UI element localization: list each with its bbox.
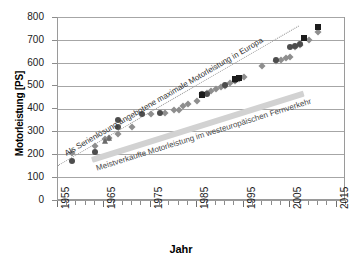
data-point-circle — [92, 149, 98, 155]
x-minor-tick — [140, 201, 141, 205]
x-minor-tick — [94, 201, 95, 205]
x-minor-tick — [326, 201, 327, 205]
x-minor-tick — [224, 201, 225, 205]
x-minor-tick — [233, 201, 234, 205]
data-point-diamond — [147, 111, 154, 118]
x-minor-tick — [317, 201, 318, 205]
y-tick-label-100: 100 — [27, 172, 44, 182]
data-point-square — [236, 75, 242, 81]
x-minor-tick — [308, 201, 309, 205]
y-axis: 800 700 600 500 400 300 200 100 0 — [0, 0, 53, 261]
y-tick-label-700: 700 — [27, 35, 44, 45]
y-tick-label-800: 800 — [27, 12, 44, 22]
x-minor-tick — [168, 201, 169, 205]
data-point-diamond — [194, 97, 201, 104]
data-point-square — [199, 92, 205, 98]
data-point-circle — [273, 57, 279, 63]
x-minor-tick — [85, 201, 86, 205]
x-minor-tick — [271, 201, 272, 205]
x-minor-tick — [187, 201, 188, 205]
x-tick-label-2015: 2015 — [340, 187, 350, 209]
x-tick-label-1955: 1955 — [61, 187, 71, 209]
data-point-circle — [69, 158, 75, 164]
y-tick-label-400: 400 — [27, 103, 44, 113]
y-tick-label-300: 300 — [27, 126, 44, 136]
x-axis-title: Jahr — [0, 243, 362, 255]
chart-root: 800 700 600 500 400 300 200 100 0 Motorl… — [0, 0, 362, 261]
data-point-diamond — [129, 124, 136, 131]
x-major-tick — [289, 201, 290, 207]
x-minor-tick — [122, 201, 123, 205]
x-tick-label-1965: 1965 — [107, 187, 117, 209]
x-minor-tick — [261, 201, 262, 205]
x-tick-label-2005: 2005 — [293, 187, 303, 209]
data-point-triangle — [106, 134, 112, 140]
x-tick-label-1975: 1975 — [154, 187, 164, 209]
x-minor-tick — [280, 201, 281, 205]
y-axis-title: Motorleistung [PS] — [14, 54, 25, 174]
gridline-800 — [58, 17, 344, 18]
y-tick-label-500: 500 — [27, 80, 44, 90]
gridline-500 — [58, 86, 344, 87]
x-minor-tick — [131, 201, 132, 205]
data-point-square — [315, 24, 321, 30]
data-point-circle — [297, 41, 303, 47]
x-major-tick — [103, 201, 104, 207]
x-minor-tick — [215, 201, 216, 205]
x-tick-label-1985: 1985 — [200, 187, 210, 209]
x-minor-tick — [178, 201, 179, 205]
x-major-tick — [336, 201, 337, 207]
y-tick-label-200: 200 — [27, 149, 44, 159]
x-major-tick — [243, 201, 244, 207]
x-major-tick — [196, 201, 197, 207]
gridline-100 — [58, 177, 344, 178]
x-tick-label-1995: 1995 — [247, 187, 257, 209]
x-major-tick — [57, 201, 58, 207]
y-tick-label-600: 600 — [27, 58, 44, 68]
data-point-square — [301, 35, 307, 41]
gridline-600 — [58, 63, 344, 64]
plot-area: Als Serienlösung angebotene maximale Mot… — [57, 17, 345, 200]
x-major-tick — [150, 201, 151, 207]
y-tick-label-0: 0 — [38, 195, 44, 205]
data-point-circle — [157, 110, 163, 116]
x-minor-tick — [75, 201, 76, 205]
data-point-circle — [222, 82, 228, 88]
